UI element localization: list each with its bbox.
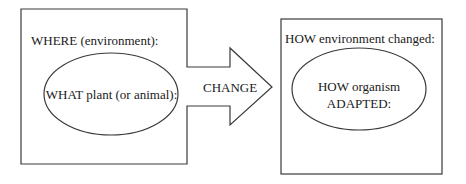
where-environment-heading: WHERE (environment): [31,33,158,48]
change-arrow-label: CHANGE [200,80,273,95]
what-organism-label: WHAT plant (or animal): [45,87,178,102]
how-adapted-label-line1: HOW organism [292,79,426,94]
how-environment-changed-heading: HOW environment changed: [285,31,435,46]
how-adapted-label-line2: ADAPTED: [292,96,426,111]
